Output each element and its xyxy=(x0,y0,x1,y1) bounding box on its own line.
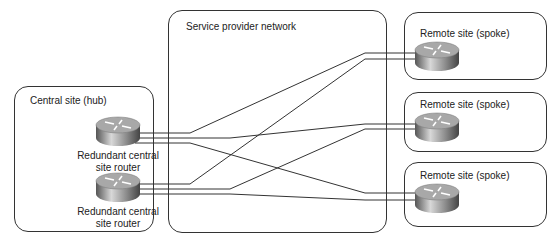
router-icon xyxy=(414,41,460,73)
router-icon xyxy=(95,116,141,148)
link-hub2-spoke1 xyxy=(135,59,420,184)
router-icon xyxy=(414,183,460,215)
router-icon xyxy=(95,172,141,204)
hub-router-1-label: Redundant central site router xyxy=(62,150,174,174)
link-hub1-spoke2 xyxy=(135,124,420,138)
hub-router-2-label: Redundant central site router xyxy=(62,206,174,230)
link-hub2-spoke3 xyxy=(135,194,420,200)
router-icon xyxy=(414,112,460,144)
